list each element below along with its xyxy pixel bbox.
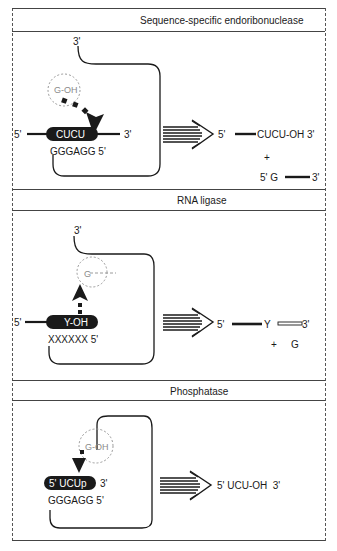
strand-3prime-label-3: 3' bbox=[100, 478, 108, 489]
reaction-arrow-icon-3 bbox=[160, 471, 211, 500]
nucleophile-label-3: G-OH bbox=[85, 442, 109, 452]
figure-bottom-rule bbox=[12, 540, 325, 541]
guide-sequence-3: GGGAGG 5' bbox=[48, 495, 104, 506]
product-sequence-3: 5' UCU-OH 3' bbox=[217, 480, 280, 491]
panel-3-diagram: G-OH 5' UCUp 3' GGGAGG 5' 5' UCU-OH 3' bbox=[0, 0, 337, 551]
attack-arrow-icon-3 bbox=[72, 450, 86, 473]
phosphate-site-label-3: 5' UCUp bbox=[49, 478, 87, 489]
rna-loop-3 bbox=[50, 416, 152, 528]
